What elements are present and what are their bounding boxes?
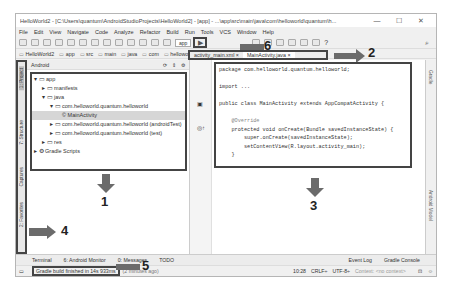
- code-line: import ...: [219, 83, 407, 92]
- status-toggle-icon[interactable]: ▭: [19, 268, 24, 274]
- avd-manager-icon[interactable]: [276, 39, 284, 46]
- annotation-arrowhead-1: [97, 184, 115, 193]
- tool-tab-project[interactable]: 1: Project: [19, 66, 24, 90]
- undo-icon[interactable]: [55, 39, 63, 46]
- annotation-label-4: 4: [61, 223, 68, 238]
- menu-vcs[interactable]: VCS: [220, 29, 231, 35]
- tree-item-java[interactable]: ▾ ▭ java: [32, 93, 185, 102]
- lock-icon[interactable]: ⊡: [418, 268, 422, 274]
- breadcrumb-item[interactable]: com: [142, 51, 159, 57]
- project-view-selector[interactable]: Android: [31, 62, 163, 68]
- tool-tab-favorites[interactable]: 2: Favorites: [19, 202, 24, 227]
- menu-build[interactable]: Build: [166, 29, 178, 35]
- find-icon[interactable]: [115, 39, 123, 46]
- tab-activity-main-xml[interactable]: activity_main.xml ×: [190, 52, 243, 58]
- menu-navigate[interactable]: Navigate: [67, 29, 89, 35]
- class-gutter-icon[interactable]: ▣: [197, 100, 203, 107]
- inspector-icon[interactable]: ☺: [428, 268, 433, 274]
- run-button[interactable]: ▶: [193, 37, 207, 48]
- menu-run[interactable]: Run: [185, 29, 195, 35]
- tool-tab-structure[interactable]: 7: Structure: [19, 120, 24, 145]
- menu-view[interactable]: View: [49, 29, 61, 35]
- annotation-label-3: 3: [310, 198, 317, 213]
- close-button[interactable]: ✕: [410, 17, 432, 25]
- annotation-arrowhead-2: [356, 49, 365, 63]
- back-icon[interactable]: [139, 39, 147, 46]
- tool-tab-gradle[interactable]: Gradle: [428, 70, 433, 84]
- tree-item-res[interactable]: ▸ ▭ res: [32, 138, 185, 147]
- code-line: }: [219, 151, 407, 160]
- workspace: 1: Project 7: Structure Captures 2: Favo…: [16, 60, 436, 254]
- annotation-arrow-5: [116, 264, 140, 270]
- tree-item-package-test[interactable]: ▸ ▭ com.helloworld.quantum.helloworld (t…: [32, 129, 185, 138]
- code-line: super.onCreate(savedInstanceState);: [219, 134, 407, 143]
- code-line: public class MainActivity extends AppCom…: [219, 100, 407, 109]
- tree-item-manifests[interactable]: ▸ ▭ manifests: [32, 84, 185, 93]
- tree-item-package[interactable]: ▾ ▭ com.helloworld.quantum.helloworld: [32, 102, 185, 111]
- minimize-button[interactable]: —: [366, 17, 388, 24]
- menu-analyze[interactable]: Analyze: [114, 29, 134, 35]
- annotation-label-1: 1: [101, 194, 108, 209]
- breadcrumb-item[interactable]: main: [98, 51, 116, 57]
- cut-icon[interactable]: [79, 39, 87, 46]
- replace-icon[interactable]: [127, 39, 135, 46]
- run-config-selector[interactable]: app: [175, 39, 191, 47]
- gear-icon[interactable]: ⚙: [181, 62, 185, 68]
- maximize-button[interactable]: ☐: [388, 17, 410, 25]
- annotation-arrowhead-3: [306, 188, 324, 197]
- code-line: @Override: [219, 117, 407, 126]
- override-gutter-icon[interactable]: ◎↑: [197, 124, 205, 131]
- code-editor[interactable]: activity_main.xml × MainActivity.java × …: [212, 60, 425, 254]
- tree-item-gradle-scripts[interactable]: ▸ ⚙ Gradle Scripts: [32, 147, 185, 156]
- open-icon[interactable]: [19, 39, 27, 46]
- breadcrumb-item[interactable]: HelloWorld2: [19, 51, 54, 57]
- sync-icon[interactable]: [43, 39, 51, 46]
- breadcrumb-item[interactable]: src: [80, 51, 94, 57]
- menu-help[interactable]: Help: [262, 29, 273, 35]
- context-selector[interactable]: Context: <no context>: [355, 268, 406, 274]
- project-structure-icon[interactable]: [300, 39, 308, 46]
- sdk-manager-icon[interactable]: [288, 39, 296, 46]
- save-icon[interactable]: [31, 39, 39, 46]
- tool-tab-android-monitor[interactable]: 6: Android Monitor: [64, 257, 106, 263]
- tool-tab-captures[interactable]: Captures: [19, 167, 24, 186]
- breadcrumb-item[interactable]: app: [59, 51, 74, 57]
- title-bar: HelloWorld2 - [C:\Users\quantum\AndroidS…: [16, 14, 436, 27]
- tool-tab-terminal[interactable]: Terminal: [32, 257, 52, 263]
- redo-icon[interactable]: [67, 39, 75, 46]
- menu-refactor[interactable]: Refactor: [140, 29, 161, 35]
- left-tool-strip: 1: Project 7: Structure Captures 2: Favo…: [16, 60, 27, 254]
- paste-icon[interactable]: [103, 39, 111, 46]
- build-hammer-icon[interactable]: [163, 39, 171, 46]
- sync-icon[interactable]: ⟳: [163, 62, 167, 68]
- status-message: Gradle build finished in 14s 933ms: [32, 266, 120, 276]
- help-icon[interactable]: ?: [324, 39, 328, 46]
- code-line: [219, 109, 407, 118]
- menu-code[interactable]: Code: [95, 29, 108, 35]
- tree-item-mainactivity[interactable]: © MainActivity: [32, 111, 185, 120]
- caret-position[interactable]: 10:28: [293, 268, 306, 274]
- android-monitor-icon[interactable]: [312, 39, 320, 46]
- forward-icon[interactable]: [151, 39, 159, 46]
- collapse-icon[interactable]: ⇕: [172, 62, 176, 68]
- code-line: setContentView(R.layout.activity_main);: [219, 143, 407, 152]
- copy-icon[interactable]: [91, 39, 99, 46]
- tree-item-app[interactable]: ▾ ▭ app: [32, 75, 185, 84]
- tool-tab-android-model[interactable]: Android Model: [428, 190, 433, 221]
- code-line: [219, 75, 407, 84]
- line-separator[interactable]: CRLF÷: [311, 268, 327, 274]
- tool-tab-event-log[interactable]: Event Log: [349, 257, 372, 263]
- tree-item-package-androidtest[interactable]: ▸ ▭ com.helloworld.quantum.helloworld (a…: [32, 120, 185, 129]
- breadcrumb-item[interactable]: java: [121, 51, 137, 57]
- menu-edit[interactable]: Edit: [34, 29, 43, 35]
- menu-window[interactable]: Window: [237, 29, 257, 35]
- tool-tab-todo[interactable]: TODO: [159, 257, 174, 263]
- file-encoding[interactable]: UTF-8÷: [332, 268, 350, 274]
- search-icon[interactable]: ⌕: [425, 39, 429, 47]
- annotation-label-2: 2: [368, 45, 375, 60]
- code-area[interactable]: package com.helloworld.quantum.helloworl…: [214, 62, 412, 168]
- menu-tools[interactable]: Tools: [201, 29, 214, 35]
- tool-tab-gradle-console[interactable]: Gradle Console: [384, 257, 420, 263]
- code-line: protected void onCreate(Bundle savedInst…: [219, 126, 407, 135]
- menu-file[interactable]: File: [19, 29, 28, 35]
